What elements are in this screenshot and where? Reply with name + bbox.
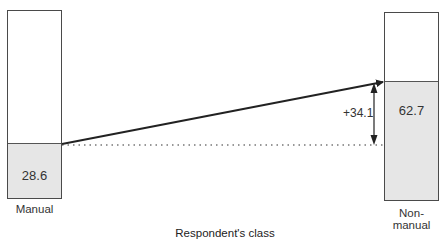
connector-overlay [0,0,445,243]
difference-label: +34.1 [343,106,373,120]
x-axis-label: Respondent's class [140,227,310,239]
difference-arrow-down-head [371,135,378,145]
bar-comparison-figure: 28.6 Manual 62.7 Non- manual +34.1 Respo… [0,0,445,243]
trend-arrow [62,82,383,144]
